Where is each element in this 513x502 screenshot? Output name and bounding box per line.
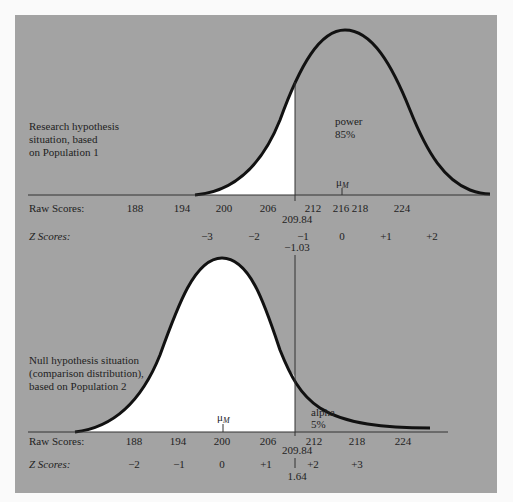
svg-text:+3: +3 (351, 458, 363, 470)
svg-text:200: 200 (214, 435, 231, 447)
svg-text:200: 200 (216, 202, 233, 214)
svg-text:216: 216 (333, 202, 350, 214)
power-diagram: μM Research hypothesis situation, based … (0, 0, 513, 502)
svg-text:218: 218 (352, 202, 369, 214)
svg-text:188: 188 (126, 435, 143, 447)
top-cutoff-raw: 209.84 (282, 213, 313, 225)
svg-text:194: 194 (170, 435, 187, 447)
svg-text:218: 218 (349, 435, 366, 447)
svg-text:+1: +1 (260, 458, 272, 470)
top-cutoff-z: −1.03 (284, 241, 310, 253)
bottom-raw-scores-label: Raw Scores: (29, 435, 84, 447)
svg-text:−3: −3 (201, 230, 213, 242)
svg-text:206: 206 (260, 202, 277, 214)
svg-text:224: 224 (395, 435, 412, 447)
svg-text:188: 188 (127, 202, 144, 214)
bottom-z-scores-label: Z Scores: (29, 458, 70, 470)
svg-text:194: 194 (174, 202, 191, 214)
bottom-cutoff-raw: 209.84 (282, 444, 313, 456)
bottom-cutoff-z: 1.64 (287, 470, 307, 482)
svg-text:0: 0 (219, 458, 225, 470)
top-raw-scores-label: Raw Scores: (29, 202, 84, 214)
svg-text:+1: +1 (380, 230, 392, 242)
svg-text:206: 206 (260, 435, 277, 447)
svg-text:224: 224 (394, 202, 411, 214)
svg-text:−1: −1 (173, 458, 185, 470)
svg-text:−2: −2 (248, 230, 260, 242)
svg-text:−2: −2 (128, 458, 140, 470)
svg-text:0: 0 (339, 230, 345, 242)
svg-text:+2: +2 (426, 230, 438, 242)
top-z-scores-label: Z Scores: (29, 230, 70, 242)
svg-text:+2: +2 (307, 458, 319, 470)
